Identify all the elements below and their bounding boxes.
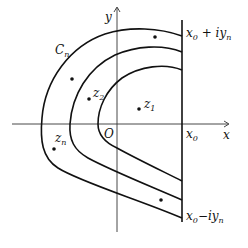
point-z2: [87, 97, 91, 101]
contour-middle: [70, 47, 182, 200]
contour-diagram: y x O x0 x0 + iyn x0−iyn Cn z1 z2 zn: [0, 0, 248, 248]
contour-label: Cn: [55, 44, 69, 59]
x-axis-label: x: [223, 129, 230, 141]
point-z1: [137, 107, 141, 111]
bottom-endpoint-label: x0−iyn: [186, 210, 224, 225]
z2-label: z2: [93, 87, 104, 102]
x0-label: x0: [186, 128, 198, 143]
top-endpoint-label: x0 + iyn: [186, 27, 231, 42]
point-left: [70, 77, 74, 81]
y-axis-label: y: [105, 11, 112, 23]
point-bottom: [159, 198, 163, 202]
origin-label: O: [104, 128, 114, 140]
point-zn: [52, 147, 56, 151]
zn-label: zn: [55, 132, 66, 147]
point-top: [153, 35, 157, 39]
z1-label: z1: [144, 98, 155, 113]
